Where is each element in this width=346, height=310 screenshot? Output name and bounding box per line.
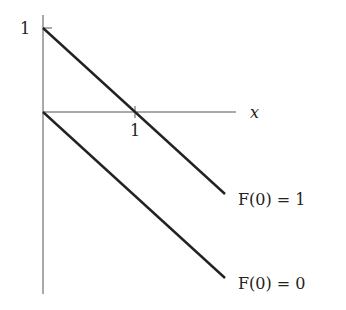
series-f0-1 xyxy=(43,28,225,194)
series1-label: F(0) = 1 xyxy=(238,190,306,209)
series2-label: F(0) = 0 xyxy=(238,274,306,293)
chart: 1 1 x F(0) = 1 F(0) = 0 xyxy=(0,0,346,310)
x-tick-label: 1 xyxy=(130,121,140,140)
x-axis-label: x xyxy=(250,103,259,122)
y-tick-label: 1 xyxy=(20,19,30,38)
